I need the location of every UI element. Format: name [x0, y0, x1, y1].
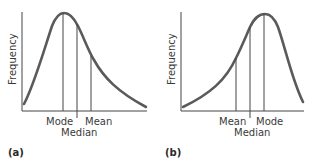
panel-b-axes — [181, 12, 304, 111]
panel-b-curve — [183, 14, 303, 107]
panel-a-mean-label: Mean — [85, 116, 112, 127]
panel-b-mode-label: Mode — [256, 116, 283, 127]
panel-a-mode-label: Mode — [46, 116, 73, 127]
panel-a: Frequency Mode Mean Median (a) — [7, 12, 147, 158]
skewed-distributions-diagram: Frequency Mode Mean Median (a) Frequency… — [0, 0, 311, 168]
panel-b-median-label: Median — [234, 127, 270, 138]
panel-b-label: (b) — [165, 147, 181, 158]
panel-b-y-axis-label: Frequency — [166, 33, 177, 85]
panel-b-mean-label: Mean — [219, 116, 246, 127]
panel-a-curve — [24, 13, 146, 107]
panel-a-y-axis-label: Frequency — [7, 33, 18, 85]
panel-a-median-label: Median — [61, 127, 97, 138]
panel-a-label: (a) — [8, 147, 24, 158]
panel-b: Frequency Mean Mode Median (b) — [165, 12, 304, 158]
